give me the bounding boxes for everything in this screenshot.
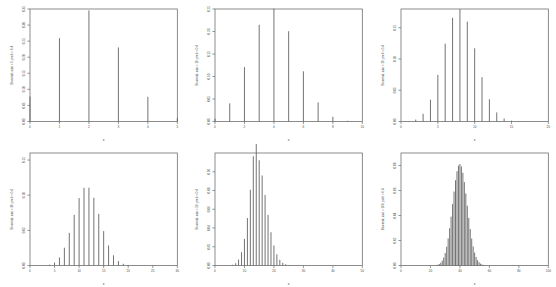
binomial-pmf-chart: 0123450.000.050.100.150.200.250.300.35xB… <box>0 0 185 144</box>
x-axis-title: x <box>288 281 290 285</box>
x-tick-label: 0 <box>214 125 216 129</box>
x-tick-label: 20 <box>273 269 277 273</box>
plot-panel-2: 02468100.000.050.100.150.200.25xBinomial… <box>185 0 370 144</box>
x-tick-label: 0 <box>400 269 402 273</box>
x-tick-label: 10 <box>77 269 81 273</box>
y-axis: 0.000.050.100.15 <box>393 24 401 124</box>
y-tick-label: 0.30 <box>22 22 26 28</box>
binomial-pmf-chart: 010203040500.000.020.040.060.080.10xBino… <box>185 144 370 287</box>
x-tick-label: 6 <box>303 125 305 129</box>
x-tick-label: 5 <box>54 269 56 273</box>
y-tick-label: 0.08 <box>208 187 212 193</box>
y-tick-label: 0.00 <box>393 262 397 268</box>
x-axis-title: x <box>473 138 475 142</box>
x-axis-title: x <box>288 138 290 142</box>
x-tick-label: 25 <box>151 269 155 273</box>
y-tick-label: 0.02 <box>208 243 212 249</box>
x-tick-label: 0 <box>214 269 216 273</box>
x-tick-label: 0 <box>400 125 402 129</box>
y-tick-label: 0.15 <box>393 24 397 30</box>
y-tick-label: 0.08 <box>393 162 397 168</box>
y-tick-label: 0.06 <box>208 205 212 211</box>
y-axis-title: Binomial; size = 5; prob = 0.4 <box>10 46 14 85</box>
x-tick-label: 40 <box>331 269 335 273</box>
plot-frame <box>215 153 362 266</box>
x-tick-label: 40 <box>458 269 462 273</box>
x-tick-label: 5 <box>437 125 439 129</box>
x-axis-title: x <box>103 138 105 142</box>
y-tick-label: 0.00 <box>208 118 212 124</box>
x-axis: 05101520 <box>400 122 550 130</box>
y-axis-title: Binomial; size = 50; prob = 0.4 <box>195 188 199 229</box>
x-tick-label: 20 <box>428 269 432 273</box>
stem-series <box>215 9 362 122</box>
x-tick-label: 1 <box>59 125 61 129</box>
x-tick-label: 20 <box>546 125 550 129</box>
y-tick-label: 0.15 <box>22 156 26 162</box>
x-axis: 020406080100 <box>400 265 551 273</box>
x-tick-label: 50 <box>361 269 365 273</box>
plot-grid: 0123450.000.050.100.150.200.250.300.35xB… <box>0 0 556 287</box>
x-tick-label: 30 <box>176 269 180 273</box>
y-tick-label: 0.05 <box>22 102 26 108</box>
binomial-pmf-chart: 02468100.000.050.100.150.200.25xBinomial… <box>185 0 370 144</box>
x-tick-label: 0 <box>29 125 31 129</box>
y-axis-title: Binomial; size = 20; prob = 0.4 <box>381 45 385 86</box>
plot-frame <box>30 9 177 122</box>
plot-panel-5: 010203040500.000.020.040.060.080.10xBino… <box>185 144 370 287</box>
y-axis: 0.000.050.100.15 <box>22 156 30 268</box>
x-tick-label: 30 <box>302 269 306 273</box>
y-tick-label: 0.10 <box>22 191 26 197</box>
y-axis: 0.000.050.100.150.200.25 <box>208 6 216 125</box>
y-tick-label: 0.25 <box>22 38 26 44</box>
y-tick-label: 0.04 <box>393 212 397 218</box>
y-tick-label: 0.15 <box>208 51 212 57</box>
y-tick-label: 0.10 <box>208 73 212 79</box>
x-tick-label: 80 <box>517 269 521 273</box>
y-tick-label: 0.05 <box>393 87 397 93</box>
x-tick-label: 4 <box>273 125 275 129</box>
x-tick-label: 15 <box>102 269 106 273</box>
x-tick-label: 0 <box>29 269 31 273</box>
binomial-pmf-chart: 051015200.000.050.100.15xBinomial; size … <box>371 0 556 144</box>
x-tick-label: 5 <box>176 125 178 129</box>
stem-series <box>401 163 548 265</box>
x-axis: 051015202530 <box>29 265 179 273</box>
y-tick-label: 0.06 <box>393 187 397 193</box>
x-tick-label: 10 <box>243 269 247 273</box>
y-tick-label: 0.10 <box>22 86 26 92</box>
x-tick-label: 2 <box>88 125 90 129</box>
y-axis-title: Binomial; size = 100; prob = 0.4 <box>381 187 385 229</box>
x-tick-label: 15 <box>509 125 513 129</box>
y-tick-label: 0.15 <box>22 70 26 76</box>
x-axis: 012345 <box>29 122 178 130</box>
y-tick-label: 0.00 <box>22 262 26 268</box>
y-tick-label: 0.00 <box>208 262 212 268</box>
y-tick-label: 0.10 <box>208 168 212 174</box>
plot-panel-4: 0510152025300.000.050.100.15xBinomial; s… <box>0 144 185 287</box>
y-tick-label: 0.10 <box>393 56 397 62</box>
x-tick-label: 3 <box>118 125 120 129</box>
x-tick-label: 20 <box>126 269 130 273</box>
y-axis-title: Binomial; size = 10; prob = 0.4 <box>195 45 199 86</box>
plot-panel-6: 0204060801000.000.020.040.060.08xBinomia… <box>371 144 556 287</box>
plot-frame <box>401 153 548 266</box>
y-tick-label: 0.02 <box>393 237 397 243</box>
stem-series <box>401 9 548 121</box>
y-tick-label: 0.25 <box>208 6 212 12</box>
plot-panel-3: 051015200.000.050.100.15xBinomial; size … <box>371 0 556 144</box>
y-tick-label: 0.05 <box>22 227 26 233</box>
stem-series <box>30 10 177 121</box>
stem-series <box>30 187 177 265</box>
x-tick-label: 100 <box>545 269 550 273</box>
y-tick-label: 0.20 <box>22 54 26 60</box>
stem-series <box>215 144 362 266</box>
x-tick-label: 8 <box>332 125 334 129</box>
y-axis: 0.000.020.040.060.080.10 <box>208 168 216 268</box>
y-axis-title: Binomial; size = 30; prob = 0.4 <box>10 188 14 229</box>
x-axis-title: x <box>103 281 105 285</box>
binomial-pmf-chart: 0510152025300.000.050.100.15xBinomial; s… <box>0 144 185 287</box>
x-tick-label: 10 <box>361 125 365 129</box>
x-axis-title: x <box>473 281 475 285</box>
y-tick-label: 0.00 <box>393 118 397 124</box>
